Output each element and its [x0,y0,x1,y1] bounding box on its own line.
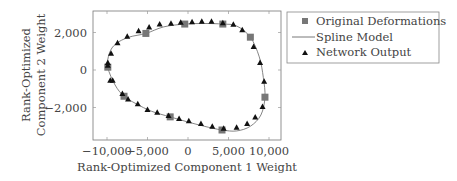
square-marker-icon [302,18,308,24]
triangle-marker [244,120,250,126]
square-marker [142,30,149,37]
triangle-marker [208,18,214,24]
square-marker [247,34,254,41]
triangle-marker [176,115,182,121]
x-axis-label: Rank-Optimized Component 1 Weight [77,160,297,174]
triangle-marker [198,120,204,126]
legend-label-original: Original Deformations [316,14,446,28]
triangle-marker [108,50,114,56]
chart: −10,000−5,00005,00010,0002,0000−2,000 Ra… [0,0,457,181]
x-tick-label: −10,000 [82,144,132,158]
triangle-marker [261,78,267,84]
legend: Original Deformations Spline Model Netwo… [287,12,446,63]
triangle-marker [157,21,163,27]
triangle-marker [209,123,215,129]
y-axis-label-line-1: Rank-Optimized [19,28,33,122]
x-tick-label: 5,000 [212,144,245,158]
triangle-marker [257,60,263,66]
plot-area [93,11,281,140]
y-axis-label-line-2: Component 2 Weight [34,13,48,136]
triangle-marker [145,106,151,112]
y-tick-label: −2,000 [44,101,87,115]
x-tick-label: 10,000 [249,144,289,158]
triangle-marker [168,20,174,26]
triangle-marker [230,21,236,27]
square-marker [261,94,268,101]
spline-path [107,24,265,132]
triangle-marker [234,124,240,130]
legend-label-network: Network Output [316,45,412,59]
tick-labels: −10,000−5,00005,00010,0002,0000−2,000 [44,26,289,159]
triangle-marker [252,114,258,120]
x-tick-label: 0 [184,144,191,158]
y-axis-label: Rank-Optimized Component 2 Weight [19,13,48,136]
network-output-series [105,18,267,130]
triangle-marker [124,33,130,39]
triangle-marker [136,28,142,34]
triangle-marker [189,19,195,25]
y-tick-label: 2,000 [54,26,87,40]
triangle-marker [186,118,192,124]
triangle-marker [199,18,205,24]
spline-model-series [107,24,265,132]
axis-ticks [93,11,281,140]
triangle-marker [146,24,152,30]
triangle-marker [154,109,160,115]
triangle-marker [115,40,121,46]
triangle-marker [260,104,266,110]
legend-label-spline: Spline Model [316,30,393,44]
y-tick-label: 0 [80,63,87,77]
x-tick-label: −5,000 [126,144,169,158]
